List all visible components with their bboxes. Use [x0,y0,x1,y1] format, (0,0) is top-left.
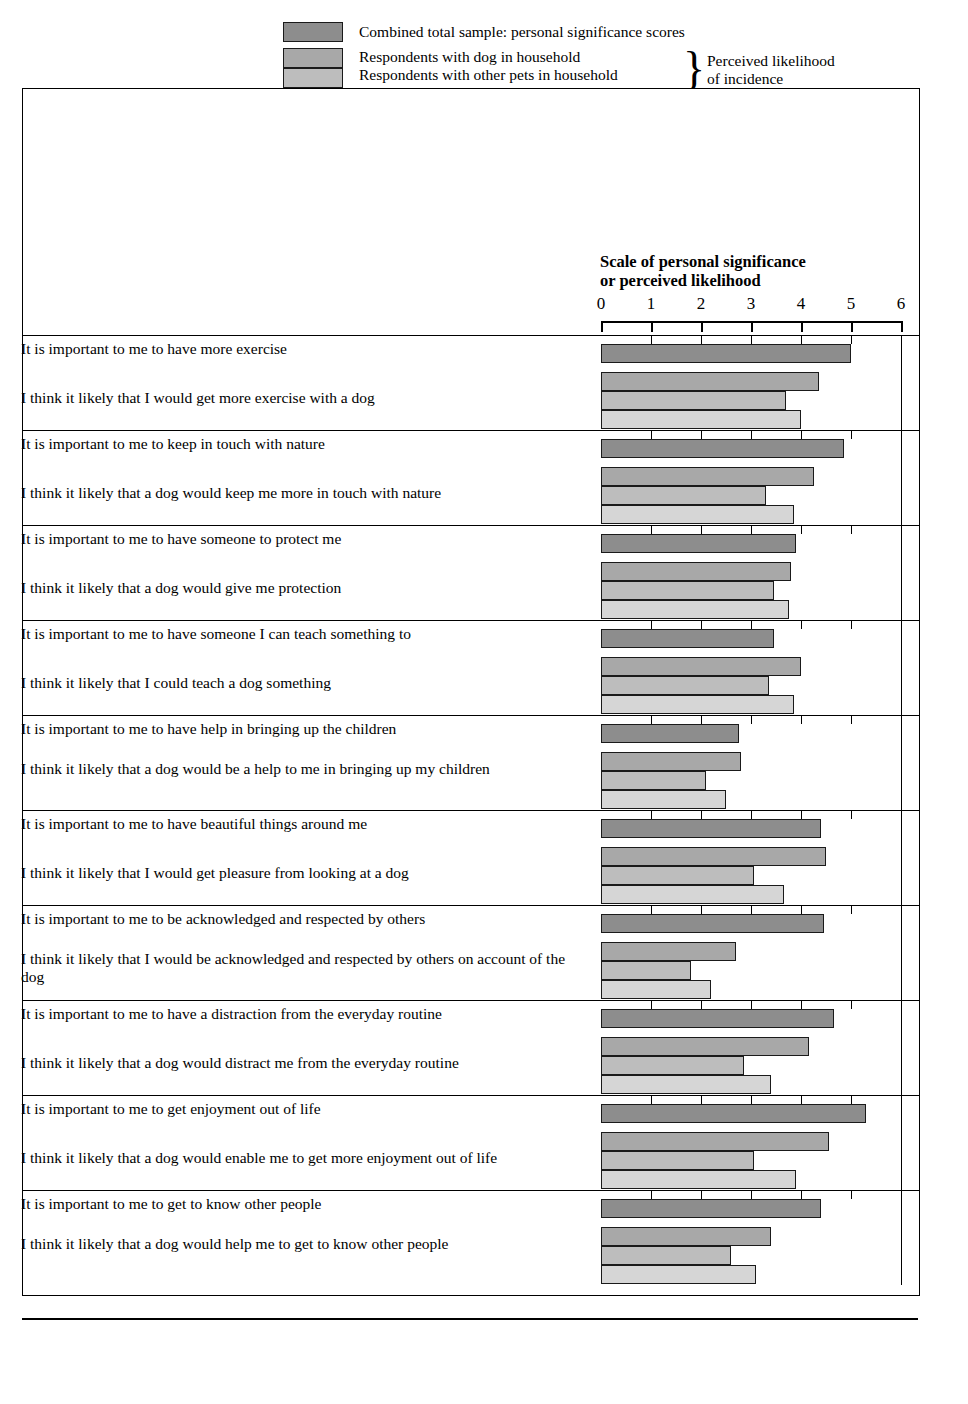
bar-other [601,1056,744,1075]
grid-tick [651,1095,652,1104]
bar-none [601,505,794,524]
bar-total [601,724,739,743]
legend-label-other: Respondents with other pets in household [359,66,618,84]
bar-dog [601,1132,829,1151]
row-bars [23,335,919,430]
grid-tick [701,335,702,344]
axis-title-line1: Scale of personal significance [600,252,806,271]
bar-dog [601,562,791,581]
grid-tick [851,905,852,914]
grid-tick [701,810,702,819]
row-bars [23,1190,919,1285]
grid-tick [701,620,702,629]
grid-tick [801,525,802,534]
grid-tick [651,810,652,819]
chart-row-group: It is important to me to have a distract… [23,1000,919,1095]
grid-tick [701,1190,702,1199]
grid-tick [801,430,802,439]
axis-rule [583,321,943,335]
plot-right-rule [901,337,902,430]
grid-tick [851,1095,852,1104]
axis-tick-label-2: 2 [697,294,706,314]
bar-none [601,600,789,619]
grid-tick [701,715,702,724]
plot-right-rule [901,527,902,620]
grid-tick [651,905,652,914]
grid-tick [801,1190,802,1199]
bar-dog [601,657,801,676]
legend-label-total: Combined total sample: personal signific… [359,23,685,41]
plot-right-rule [901,1097,902,1190]
chart-frame: Scale of personal significance or percei… [22,88,920,1296]
row-bars [23,715,919,810]
axis-tick-label-6: 6 [897,294,906,314]
legend-brace-line2: of incidence [707,70,783,87]
bar-none [601,980,711,999]
axis-tick-1 [651,321,653,332]
chart-row-group: It is important to me to have more exerc… [23,335,919,430]
bar-dog [601,1227,771,1246]
bar-other [601,866,754,885]
axis-tick-0 [601,321,603,332]
row-bars [23,1095,919,1190]
axis-tick-labels: 0123456 [583,294,943,316]
legend-row-total: Combined total sample: personal signific… [283,22,883,42]
grid-tick [701,1000,702,1009]
grid-tick [751,1095,752,1104]
row-bars [23,430,919,525]
bar-total [601,819,821,838]
plot-right-rule [901,717,902,810]
bar-dog [601,467,814,486]
bar-total [601,534,796,553]
grid-tick [751,905,752,914]
grid-tick [701,525,702,534]
grid-tick [651,1000,652,1009]
bar-total [601,1104,866,1123]
grid-tick [751,525,752,534]
chart-row-group: It is important to me to get enjoyment o… [23,1095,919,1190]
grid-tick [801,1095,802,1104]
grid-tick [701,430,702,439]
grid-tick [751,1000,752,1009]
chart-rows: It is important to me to have more exerc… [23,335,919,1285]
bar-other [601,391,786,410]
grid-tick [751,335,752,344]
brace-icon: } [683,46,705,92]
bar-none [601,885,784,904]
chart-row-group: It is important to me to have help in br… [23,715,919,810]
axis-tick-label-5: 5 [847,294,856,314]
bar-total [601,1009,834,1028]
axis-tick-5 [851,321,853,332]
bar-none [601,695,794,714]
axis-tick-label-1: 1 [647,294,656,314]
grid-tick [851,335,852,344]
grid-tick [651,715,652,724]
grid-tick [801,1000,802,1009]
bar-dog [601,372,819,391]
chart-row-group: It is important to me to have beautiful … [23,810,919,905]
axis-tick-label-4: 4 [797,294,806,314]
bar-dog [601,752,741,771]
plot-right-rule [901,1002,902,1095]
axis-title: Scale of personal significance or percei… [600,252,900,290]
grid-tick [701,905,702,914]
grid-tick [851,525,852,534]
axis-tick-label-0: 0 [597,294,606,314]
bar-total [601,1199,821,1218]
bar-total [601,344,851,363]
bar-none [601,1075,771,1094]
grid-tick [851,810,852,819]
chart-row-group: It is important to me to have someone I … [23,620,919,715]
bar-other [601,581,774,600]
bar-other [601,676,769,695]
grid-tick [751,620,752,629]
grid-tick [751,430,752,439]
plot-right-rule [901,432,902,525]
grid-tick [651,430,652,439]
plot-right-rule [901,622,902,715]
bar-total [601,629,774,648]
chart-row-group: It is important to me to keep in touch w… [23,430,919,525]
bar-other [601,1246,731,1265]
grid-tick [801,905,802,914]
legend-brace-label: Perceived likelihood of incidence [707,52,835,88]
